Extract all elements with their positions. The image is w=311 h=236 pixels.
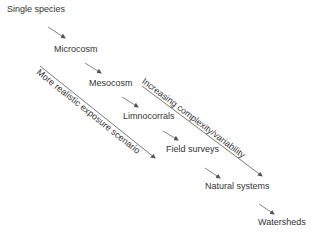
step-arrow-6 (259, 204, 274, 214)
step-arrow-3 (122, 97, 138, 107)
step-arrow-5 (205, 168, 220, 178)
stage-microcosm: Microcosm (54, 44, 98, 54)
stage-watersheds: Watersheds (258, 217, 306, 227)
stage-field-surveys: Field surveys (166, 144, 219, 154)
stage-limnocorrals: Limnocorrals (123, 111, 175, 121)
step-arrow-4 (163, 131, 178, 140)
step-arrow-1 (48, 27, 65, 38)
stage-single-species: Single species (7, 4, 65, 14)
step-arrow-2 (85, 63, 101, 73)
stage-natural-systems: Natural systems (205, 181, 270, 191)
stage-mesocosm: Mesocosm (89, 78, 133, 88)
